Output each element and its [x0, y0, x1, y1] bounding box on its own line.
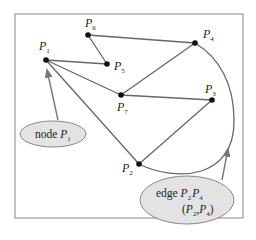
- node-p7: [118, 92, 124, 98]
- node-p4: [192, 40, 198, 46]
- node-p1: [43, 57, 49, 63]
- node-callout: node P1: [20, 121, 86, 147]
- graph-diagram: P1 P2 P3 P4 P5 P6 P7 node P1 edge P2P4 (…: [0, 0, 256, 240]
- node-p5: [104, 61, 110, 67]
- node-p3: [209, 97, 215, 103]
- edge-callout: edge P2P4 (P2,P4): [140, 176, 234, 224]
- node-p2: [136, 161, 142, 167]
- node-p6: [85, 32, 91, 38]
